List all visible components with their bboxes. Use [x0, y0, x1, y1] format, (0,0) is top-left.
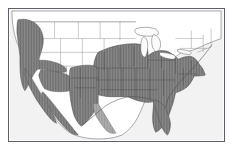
lake-michigan	[141, 37, 148, 58]
map-canvas	[9, 9, 224, 141]
map-frame	[8, 8, 225, 142]
distribution-map-figure	[0, 0, 233, 151]
